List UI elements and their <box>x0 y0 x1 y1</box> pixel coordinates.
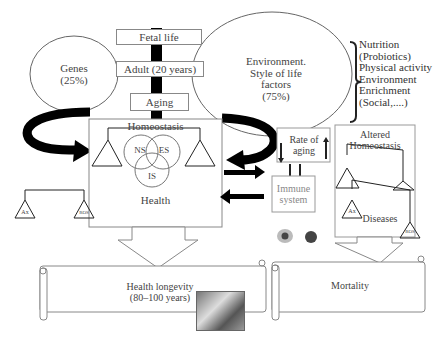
rate-of-aging-line2: aging <box>283 146 325 157</box>
altered-ax-label: Ax <box>343 208 361 214</box>
environment-line1: Environment. <box>226 56 326 68</box>
ns-label: NS <box>130 146 150 155</box>
ax-label: Ax <box>16 209 34 215</box>
diseases-label: Diseases <box>360 214 400 225</box>
elderly-person-photo <box>196 291 245 331</box>
altered-line2: Homeostasis <box>335 141 415 152</box>
rate-of-aging-line1: Rate of <box>283 135 325 146</box>
genes-text: Genes <box>54 63 94 75</box>
fetal-life-box: Fetal life <box>116 29 202 45</box>
factor-nutrition: Nutrition <box>359 39 432 51</box>
factor-social: (Social,....) <box>359 97 432 109</box>
genes-percent: (25%) <box>54 75 94 87</box>
health-longevity-line2: (80–100 years) <box>110 293 210 304</box>
environment-label: Environment. Style of life factors (75%) <box>226 56 326 102</box>
health-longevity-line1: Health longevity <box>110 282 210 293</box>
immune-system-label: Immune system <box>272 184 315 205</box>
factor-enrichment: Enrichment <box>359 85 432 97</box>
genes-label: Genes (25%) <box>54 63 94 86</box>
adult-box: Adult (20 years) <box>116 61 204 77</box>
cell-icon <box>305 231 317 243</box>
es-label: ES <box>154 146 174 155</box>
ros-label: ROS <box>74 210 94 215</box>
rate-of-aging-label: Rate of aging <box>283 135 325 156</box>
altered-line1: Altered <box>335 130 415 141</box>
immune-line1: Immune <box>272 184 315 195</box>
environment-line3: factors <box>226 79 326 91</box>
lifestyle-factors-list: Nutrition (Probiotics) Physical activity… <box>359 39 432 108</box>
health-longevity-label: Health longevity (80–100 years) <box>110 282 210 303</box>
factor-physical-activity: Physical activity <box>359 62 432 74</box>
mortality-label: Mortality <box>300 281 400 292</box>
homeostasis-title: Homeostasis <box>89 121 222 133</box>
aging-box: Aging <box>130 93 189 111</box>
is-label: IS <box>142 172 162 181</box>
altered-homeostasis-label: Altered Homeostasis <box>335 130 415 151</box>
immune-line2: system <box>272 195 315 206</box>
health-label: Health <box>89 195 222 207</box>
environment-percent: (75%) <box>226 91 326 103</box>
altered-ros-label: ROS <box>400 229 420 234</box>
